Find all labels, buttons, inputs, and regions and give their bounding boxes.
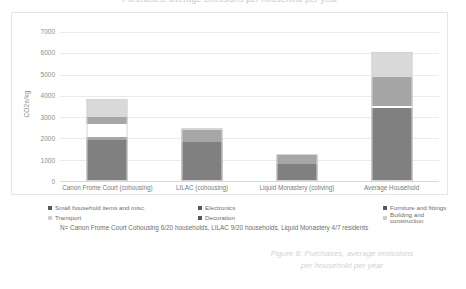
y-axis-tick-4000: 4000 (41, 93, 55, 100)
y-axis-tick-2000: 2000 (41, 136, 55, 143)
y-axis-tick-1000: 1000 (41, 157, 55, 164)
figure-container: Purchases, average emissions per househo… (0, 0, 466, 289)
x-axis-category-label: Canon Frome Court (cohousing) (62, 185, 152, 191)
gridline-0: 0 (60, 181, 439, 182)
x-axis-category-label: LILAC (cohousing) (176, 185, 228, 191)
legend-swatch-icon (383, 206, 387, 210)
caption-line-1: Figure 8: Purchases, average emissions (271, 249, 414, 258)
legend-item[interactable]: Small household items and misc. (48, 203, 198, 213)
bar-segment[interactable] (182, 142, 223, 181)
x-axis-category-label: Average Household (364, 185, 419, 191)
legend-swatch-icon (48, 216, 52, 220)
legend-swatch-icon (198, 216, 202, 220)
bar-segment[interactable] (87, 140, 128, 182)
bar-group[interactable]: LILAC (cohousing) (155, 32, 250, 181)
chart-footnote: N= Canon Frome Court Cohousing 6/20 hous… (60, 224, 460, 232)
y-axis-tick-3000: 3000 (41, 114, 55, 121)
stacked-bar[interactable] (87, 99, 128, 181)
legend-label: Building and construction (390, 212, 448, 224)
caption-line-2: per household per year (301, 261, 383, 270)
legend-label: Decoration (205, 215, 235, 221)
bar-group[interactable]: Average Household (344, 32, 439, 181)
legend-item[interactable]: Building and construction (383, 213, 448, 223)
legend-item[interactable]: Electronics (198, 203, 383, 213)
legend-item[interactable]: Decoration (198, 213, 383, 223)
bar-segment[interactable] (87, 124, 128, 137)
y-axis-label: CO2e/kg (23, 90, 30, 117)
bar-segment[interactable] (276, 164, 317, 181)
bar-segment[interactable] (371, 77, 412, 106)
legend-label: Electronics (205, 205, 235, 211)
figure-caption: Figure 8: Purchases, average emissions p… (236, 248, 448, 271)
bar-segment[interactable] (182, 130, 223, 142)
chart-panel: CO2e/kg 70006000500040003000200010000 Ca… (11, 12, 448, 195)
chart-legend: Small household items and misc.Electroni… (48, 203, 448, 223)
bar-segment[interactable] (87, 99, 128, 117)
stacked-bar[interactable] (371, 52, 412, 181)
bar-group[interactable]: Liquid Monastery (coliving) (250, 32, 345, 181)
bar-segment[interactable] (371, 53, 412, 77)
x-axis-category-label: Liquid Monastery (coliving) (259, 185, 334, 191)
stacked-bar[interactable] (182, 128, 223, 181)
legend-label: Small household items and misc. (55, 205, 145, 211)
legend-swatch-icon (198, 206, 202, 210)
y-axis-tick-5000: 5000 (41, 72, 55, 79)
y-axis-tick-7000: 7000 (41, 29, 55, 36)
legend-label: Transport (55, 215, 81, 221)
y-axis-tick-6000: 6000 (41, 50, 55, 57)
y-axis-tick-0: 0 (51, 179, 55, 186)
legend-swatch-icon (48, 206, 52, 210)
stacked-bar[interactable] (276, 154, 317, 181)
legend-swatch-icon (383, 216, 387, 220)
plot-area: 70006000500040003000200010000 Canon From… (60, 32, 439, 181)
bar-group[interactable]: Canon Frome Court (cohousing) (60, 32, 155, 181)
bar-segment[interactable] (87, 117, 128, 124)
legend-item[interactable]: Transport (48, 213, 198, 223)
bar-series-layer: Canon Frome Court (cohousing)LILAC (coho… (60, 32, 439, 181)
bar-segment[interactable] (371, 108, 412, 181)
chart-title: Purchases, average emissions per househo… (60, 0, 400, 4)
bar-segment[interactable] (276, 155, 317, 164)
